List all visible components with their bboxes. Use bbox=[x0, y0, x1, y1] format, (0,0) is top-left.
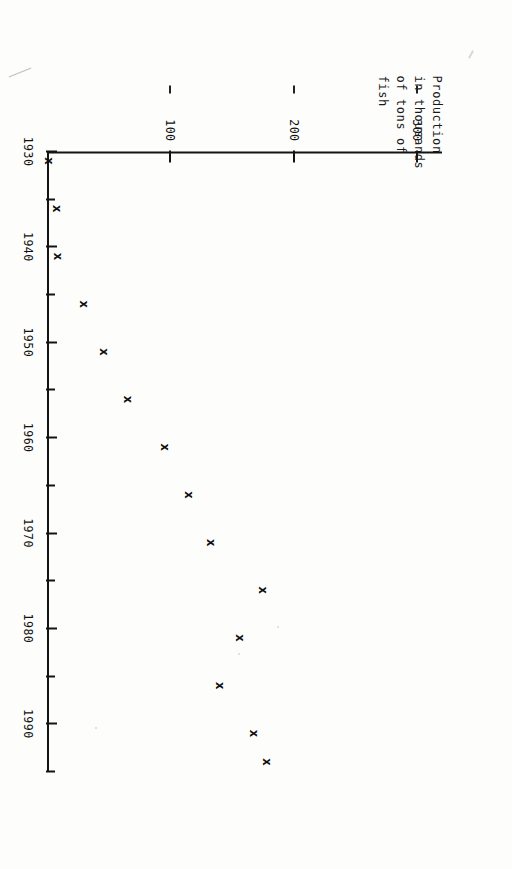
x-minor-tick bbox=[46, 675, 55, 677]
data-point: x bbox=[122, 395, 135, 403]
y-tick-dash bbox=[169, 85, 171, 93]
x-minor-tick bbox=[46, 770, 55, 772]
data-point: x bbox=[257, 586, 270, 594]
x-tick bbox=[46, 341, 57, 343]
x-minor-tick bbox=[46, 293, 55, 295]
plot-area: 1930194019501960197019801990 100200300 x… bbox=[47, 151, 442, 771]
y-tick-dash bbox=[293, 85, 295, 93]
y-tick-label: 300 bbox=[410, 105, 424, 141]
x-tick-label: 1930 bbox=[21, 136, 35, 166]
x-tick bbox=[46, 150, 57, 152]
scan-speck bbox=[468, 50, 474, 59]
data-point: x bbox=[97, 347, 110, 355]
x-tick-label: 1970 bbox=[21, 518, 35, 548]
x-tick bbox=[46, 722, 57, 724]
y-axis-line bbox=[47, 151, 442, 153]
x-tick-label: 1950 bbox=[21, 327, 35, 357]
data-point: x bbox=[260, 758, 273, 766]
x-minor-tick bbox=[46, 579, 55, 581]
pencil-mark-artifact bbox=[9, 68, 32, 78]
y-tick-dash bbox=[416, 85, 418, 93]
data-point: x bbox=[159, 443, 172, 451]
x-minor-tick bbox=[46, 388, 55, 390]
x-minor-tick bbox=[46, 198, 55, 200]
y-tick-label: 100 bbox=[163, 105, 177, 141]
data-point: x bbox=[248, 729, 261, 737]
data-point: x bbox=[233, 634, 246, 642]
scatter-chart: 1930-1994 AND OVER Production in thousan… bbox=[32, 81, 452, 786]
data-point: x bbox=[205, 538, 218, 546]
data-point: x bbox=[182, 490, 195, 498]
x-tick-label: 1960 bbox=[21, 422, 35, 452]
x-minor-tick bbox=[46, 484, 55, 486]
y-tick bbox=[416, 150, 418, 162]
x-tick bbox=[46, 436, 57, 438]
y-tick bbox=[169, 150, 171, 162]
x-tick bbox=[46, 627, 57, 629]
scanned-page: 1930-1994 AND OVER Production in thousan… bbox=[0, 0, 512, 869]
x-tick-label: 1980 bbox=[21, 613, 35, 643]
y-tick-label: 200 bbox=[287, 105, 301, 141]
x-axis-line bbox=[47, 151, 49, 771]
x-tick bbox=[46, 245, 57, 247]
data-point: x bbox=[50, 204, 63, 212]
data-point: x bbox=[78, 300, 91, 308]
x-tick bbox=[46, 532, 57, 534]
data-point: x bbox=[52, 252, 65, 260]
y-tick bbox=[293, 150, 295, 162]
data-point: x bbox=[43, 157, 56, 165]
x-tick-label: 1990 bbox=[21, 708, 35, 738]
x-tick-label: 1940 bbox=[21, 232, 35, 262]
data-point: x bbox=[213, 681, 226, 689]
